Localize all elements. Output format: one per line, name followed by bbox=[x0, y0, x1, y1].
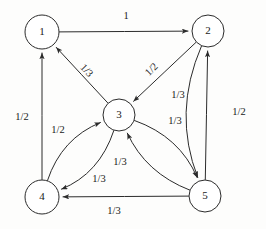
edge-label-2-to-5: 1/2 bbox=[232, 106, 245, 117]
graph-canvas: 11/31/21/21/31/21/21/31/31/31/3 12345 bbox=[0, 0, 266, 229]
node-label-2: 2 bbox=[205, 24, 211, 36]
edge-label-3-to-4: 1/3 bbox=[92, 173, 105, 184]
node-1[interactable]: 1 bbox=[25, 15, 59, 49]
nodes-layer: 12345 bbox=[25, 15, 224, 214]
graph-figure: 11/31/21/21/31/21/21/31/31/31/3 12345 bbox=[0, 0, 266, 229]
node-label-1: 1 bbox=[39, 25, 45, 37]
node-label-5: 5 bbox=[202, 189, 208, 201]
edge-label-4-to-1: 1/2 bbox=[15, 111, 28, 122]
node-3[interactable]: 3 bbox=[103, 99, 135, 131]
edge-1-to-2 bbox=[59, 31, 188, 32]
edge-3-to-1 bbox=[56, 47, 107, 103]
edge-label-5-to-4: 1/3 bbox=[107, 205, 120, 216]
edge-5-to-2 bbox=[205, 51, 207, 180]
node-label-3: 3 bbox=[116, 108, 122, 120]
node-4[interactable]: 4 bbox=[25, 180, 59, 214]
edge-label-4-to-3: 1/2 bbox=[51, 124, 64, 135]
node-2[interactable]: 2 bbox=[192, 15, 224, 47]
edge-label-5-to-2: 1/3 bbox=[171, 89, 184, 100]
edge-label-2-to-3: 1/2 bbox=[143, 61, 160, 78]
node-label-4: 4 bbox=[39, 190, 45, 202]
edge-label-1-to-2: 1 bbox=[123, 10, 128, 21]
edge-5-to-3 bbox=[127, 133, 189, 190]
edge-2-to-5 bbox=[186, 46, 201, 177]
node-5[interactable]: 5 bbox=[189, 180, 221, 212]
edge-3-to-4 bbox=[61, 131, 113, 189]
edge-3-to-5 bbox=[135, 121, 198, 178]
edge-5-to-4 bbox=[63, 196, 189, 197]
edge-label-3-to-1: 1/3 bbox=[78, 62, 95, 79]
edge-label-5-to-3: 1/3 bbox=[113, 156, 126, 167]
edge-label-3-to-5: 1/3 bbox=[168, 115, 181, 126]
